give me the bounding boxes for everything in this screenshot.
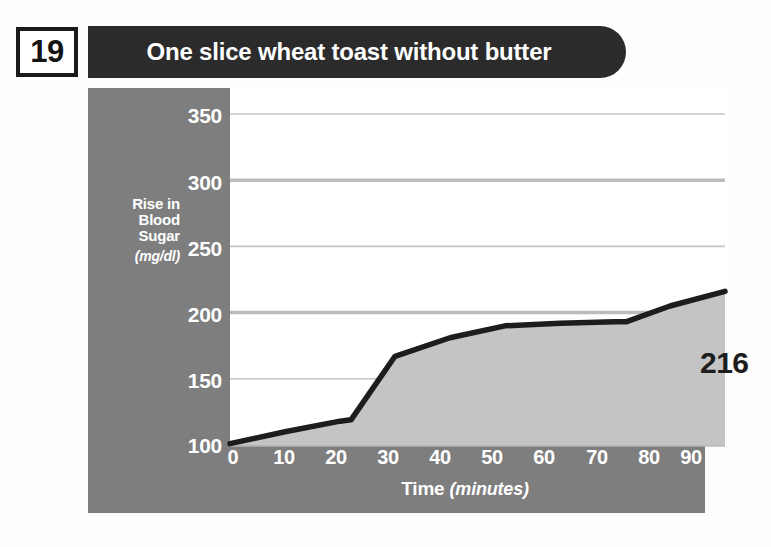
chart-page: 19 One slice wheat toast without butter … bbox=[0, 0, 771, 547]
header: 19 One slice wheat toast without butter bbox=[16, 26, 626, 78]
plot-svg bbox=[88, 88, 728, 513]
chart-container: Rise in Blood Sugar (mg/dl) 350 300 250 … bbox=[88, 88, 728, 513]
page-title: One slice wheat toast without butter bbox=[88, 26, 626, 78]
page-number-badge: 19 bbox=[16, 27, 78, 77]
final-value-annotation: 216 bbox=[700, 346, 749, 380]
